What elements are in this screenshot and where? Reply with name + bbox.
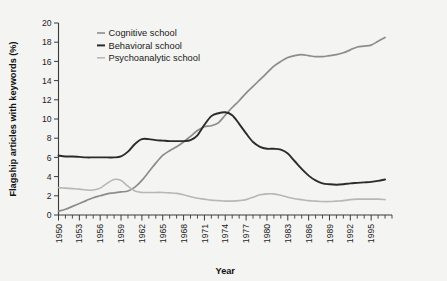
x-axis-tick-label: 1986: [304, 224, 314, 243]
series-line-psychoanalytic-school: [59, 179, 386, 201]
x-axis-tick-label: 1983: [283, 224, 293, 243]
x-axis-tick-label: 1971: [200, 224, 210, 243]
series-line-behavioral-school: [59, 112, 386, 185]
x-axis-tick-label: 1965: [158, 224, 168, 243]
x-axis-tick-label: 1950: [54, 224, 64, 243]
chart-axes: [59, 23, 393, 215]
legend-label-1: Behavioral school: [109, 41, 182, 51]
x-axis-tick-label: 1974: [220, 224, 230, 243]
x-axis-tick-label: 1953: [74, 224, 84, 243]
y-axis-title: Flagship articles with keywords (%): [8, 41, 18, 196]
x-axis-tick-label: 1992: [345, 224, 355, 243]
x-axis-tick-label: 1959: [116, 224, 126, 243]
y-axis-tick-label: 20: [42, 18, 52, 28]
line-chart: 0246810121416182019501953195619591962196…: [0, 0, 447, 281]
x-axis-tick-label: 1977: [241, 224, 251, 243]
x-axis-tick-label: 1968: [179, 224, 189, 243]
legend-label-2: Psychoanalytic school: [109, 53, 200, 63]
x-axis-tick-label: 1995: [366, 224, 376, 243]
x-axis-tick-label: 1956: [95, 224, 105, 243]
x-axis-title: Year: [216, 266, 236, 276]
y-axis-tick-label: 16: [42, 57, 52, 67]
y-axis-tick-label: 18: [42, 37, 52, 47]
y-axis-tick-label: 4: [47, 172, 52, 182]
x-axis-tick-label: 1962: [137, 224, 147, 243]
y-axis-tick-label: 10: [42, 114, 52, 124]
y-axis-tick-label: 0: [47, 210, 52, 220]
chart-figure: 0246810121416182019501953195619591962196…: [0, 0, 447, 281]
y-axis-tick-label: 12: [42, 95, 52, 105]
y-axis-tick-label: 6: [47, 153, 52, 163]
x-axis-tick-label: 1989: [325, 224, 335, 243]
y-axis-tick-label: 8: [47, 133, 52, 143]
y-axis-tick-label: 2: [47, 191, 52, 201]
legend-label-0: Cognitive school: [109, 28, 177, 38]
x-axis-tick-label: 1980: [262, 224, 272, 243]
y-axis-tick-label: 14: [42, 76, 52, 86]
